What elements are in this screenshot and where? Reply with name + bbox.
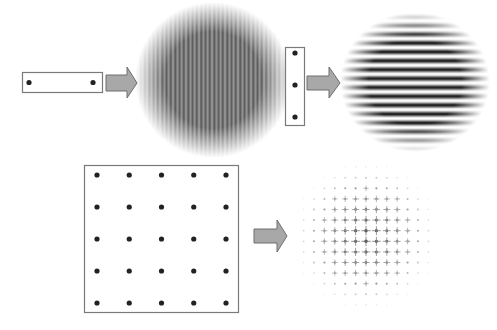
fringe-line <box>191 0 193 165</box>
diffraction-spot <box>323 272 325 274</box>
diffraction-spot <box>362 259 370 267</box>
diffraction-spot <box>417 230 419 232</box>
diffraction-spot <box>405 217 411 223</box>
diffraction-spot <box>375 187 377 189</box>
pinhole <box>223 268 228 273</box>
diffraction-spot <box>386 293 388 295</box>
diffraction-spot <box>428 240 430 242</box>
pinhole <box>26 80 31 85</box>
diffraction-spot <box>332 206 338 212</box>
diffraction-spot <box>394 227 401 234</box>
diffraction-spot <box>373 196 379 202</box>
diffraction-spot <box>365 177 367 179</box>
diffraction-spot <box>303 219 305 221</box>
diffraction-spot <box>383 237 391 245</box>
diffraction-spot <box>428 209 430 211</box>
pinhole <box>292 114 297 119</box>
pinhole <box>223 236 228 241</box>
vertical-slit-aperture <box>286 48 305 126</box>
pinhole <box>90 80 95 85</box>
diffraction-spot <box>332 196 337 201</box>
fringe-line <box>196 0 198 165</box>
diffraction-spot <box>373 270 379 276</box>
diffraction-spot <box>334 187 336 189</box>
diffraction-spot <box>405 228 411 234</box>
fringe-line <box>209 0 211 165</box>
diffraction-spot <box>372 226 381 235</box>
diffraction-spot <box>355 304 357 306</box>
fringe-line <box>335 50 497 54</box>
fringe-line <box>217 0 219 165</box>
diffraction-spot <box>417 283 419 285</box>
diffraction-spot <box>313 177 314 178</box>
diffraction-spot <box>362 206 370 214</box>
diffraction-spot <box>323 198 325 200</box>
pinhole <box>191 204 196 209</box>
diffraction-spot <box>303 198 304 199</box>
fringe-line <box>248 0 250 165</box>
diffraction-spot <box>407 177 409 179</box>
diffraction-spot <box>383 227 391 235</box>
pinhole <box>292 50 297 55</box>
diffraction-spot <box>417 219 419 221</box>
diffraction-spot <box>417 209 419 211</box>
pinhole <box>191 268 196 273</box>
fringe-line <box>335 121 497 125</box>
diffraction-spot <box>386 283 388 285</box>
diffraction-spot <box>331 227 338 234</box>
pinhole <box>223 172 228 177</box>
fringe-line <box>252 0 254 165</box>
diffraction-spot <box>375 293 377 295</box>
diffraction-spot <box>405 238 411 244</box>
diffraction-spot <box>352 270 358 276</box>
diffraction-spot <box>303 283 304 284</box>
diffraction-spot <box>334 304 335 305</box>
fringe-line <box>139 0 141 165</box>
diffraction-spot <box>365 166 367 168</box>
diffraction-spot <box>352 196 358 202</box>
diffraction-spot <box>344 304 345 305</box>
diffraction-spot <box>303 240 305 242</box>
diffraction-spot <box>386 166 387 167</box>
pinhole <box>223 300 228 305</box>
diffraction-spot <box>321 217 327 223</box>
pinhole <box>127 236 132 241</box>
diffraction-spot <box>313 198 315 200</box>
fringe-line <box>226 0 228 165</box>
diffraction-spot <box>394 259 400 265</box>
diffraction-spot <box>341 237 349 245</box>
diffraction-spot <box>407 272 409 274</box>
fringe-line <box>335 112 497 116</box>
diffraction-spot <box>428 272 429 273</box>
fringe-line <box>335 59 497 63</box>
diffraction-spot <box>397 304 398 305</box>
diffraction-spot <box>428 219 430 221</box>
diffraction-spot <box>428 283 429 284</box>
fringe-line <box>335 32 497 36</box>
diffraction-spot <box>342 270 348 276</box>
fringe-line <box>282 0 284 165</box>
diffraction-spot <box>394 206 400 212</box>
diffraction-spot <box>334 177 336 179</box>
diffraction-spot <box>303 251 305 253</box>
pinhole <box>159 300 164 305</box>
diffraction-spot <box>344 177 346 179</box>
diffraction-spot <box>303 272 304 273</box>
diffraction-spot <box>355 177 357 179</box>
pinhole <box>94 204 99 209</box>
diffraction-spot <box>363 270 370 277</box>
diffraction-spot <box>365 304 367 306</box>
diffraction-spot <box>332 270 337 275</box>
diffraction-spot <box>313 262 315 264</box>
diffraction-spot <box>313 219 315 221</box>
fringe-line <box>170 0 172 165</box>
diffraction-spot <box>334 293 336 295</box>
diffraction-spot <box>352 259 359 266</box>
horizontal-fringe-pattern <box>335 14 497 151</box>
diffraction-spot <box>344 283 346 285</box>
fringe-line <box>235 0 237 165</box>
diffraction-spot <box>428 188 429 189</box>
diffraction-spot <box>362 248 371 257</box>
diffraction-spot <box>384 270 390 276</box>
diffraction-diagram <box>0 0 497 330</box>
